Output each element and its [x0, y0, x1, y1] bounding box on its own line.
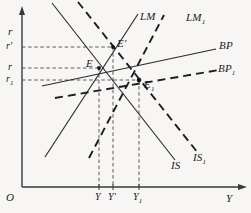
- curve-label-bp1: BP1: [218, 63, 236, 77]
- tick-label-r: r: [8, 62, 12, 72]
- axes-group: [22, 12, 241, 187]
- point-marker-e1: [137, 78, 142, 83]
- point-label-e: E: [86, 58, 93, 69]
- curve-label-lm1-sub: 1: [202, 18, 206, 26]
- curve-label-bp1-base: BP: [218, 62, 232, 74]
- tick-label-r-prime: r′: [6, 41, 12, 51]
- point-marker-e-prime: [111, 45, 115, 49]
- point-marker-e: [97, 66, 101, 70]
- curve-label-is1: IS1: [193, 152, 206, 166]
- curve-is: [52, 3, 175, 160]
- curve-label-lm: LM: [140, 11, 156, 22]
- tick-label-Y: Y: [95, 192, 101, 202]
- tick-label-Y1-sub: 1: [139, 197, 143, 205]
- curve-label-bp1-sub: 1: [232, 69, 236, 77]
- curve-label-is1-base: IS: [193, 151, 203, 163]
- origin-label: O: [6, 192, 14, 203]
- curve-label-bp: BP: [219, 40, 233, 51]
- point-label-e1-sub: 1: [151, 85, 155, 93]
- curve-bp1: [55, 70, 219, 98]
- tick-label-Y-prime: Y′: [108, 192, 116, 202]
- curve-label-is1-sub: 1: [203, 158, 207, 166]
- tick-label-r1: r1: [6, 74, 14, 87]
- point-label-e1-base: E: [144, 78, 151, 90]
- y-axis-arrowhead: [19, 6, 25, 15]
- is-lm-bp-diagram: r Y O r′ r r1 Y Y′ Y1 LM LM1 BP BP1 IS I…: [0, 0, 251, 213]
- guide-lines-group: [22, 47, 139, 187]
- x-axis-arrowhead: [238, 184, 247, 190]
- point-label-e-prime: E′: [117, 38, 127, 49]
- curve-label-lm1-base: LM: [186, 11, 202, 23]
- point-label-e1: E1: [144, 79, 155, 93]
- curve-label-lm1: LM1: [186, 12, 205, 26]
- curve-is1: [78, 2, 198, 153]
- equilibrium-points-group: [97, 45, 141, 82]
- curve-label-is: IS: [171, 160, 181, 171]
- tick-label-Y1: Y1: [133, 192, 142, 205]
- y-axis-label: r: [8, 26, 12, 37]
- diagram-canvas: [0, 0, 251, 213]
- tick-label-r1-sub: 1: [10, 79, 14, 87]
- x-axis-label: Y: [226, 193, 232, 204]
